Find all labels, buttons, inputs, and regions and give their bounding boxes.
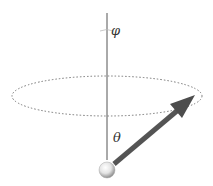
origin-sphere bbox=[99, 162, 115, 178]
phi-label: φ bbox=[111, 23, 121, 38]
vector-arrow-shaft bbox=[114, 110, 178, 164]
spherical-angle-diagram: φ θ bbox=[0, 0, 213, 186]
theta-label: θ bbox=[113, 130, 121, 145]
